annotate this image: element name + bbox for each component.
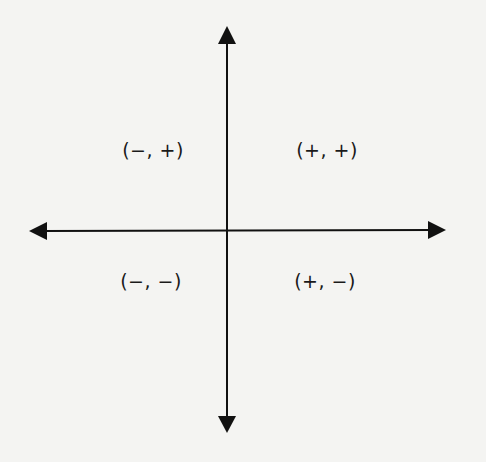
down-arrow-icon bbox=[218, 416, 236, 433]
left-arrow-icon bbox=[29, 222, 47, 240]
coordinate-plane: (−, +) (+, +) (−, −) (+, −) bbox=[0, 0, 486, 462]
up-arrow-icon bbox=[218, 26, 236, 44]
quadrant-1-label: (+, +) bbox=[296, 139, 358, 161]
quadrant-2-label: (−, +) bbox=[122, 139, 184, 161]
y-axis bbox=[218, 26, 236, 433]
quadrant-4-label: (+, −) bbox=[294, 270, 356, 292]
axes bbox=[0, 0, 486, 462]
right-arrow-icon bbox=[428, 221, 446, 239]
quadrant-3-label: (−, −) bbox=[120, 270, 182, 292]
x-axis bbox=[29, 221, 446, 240]
